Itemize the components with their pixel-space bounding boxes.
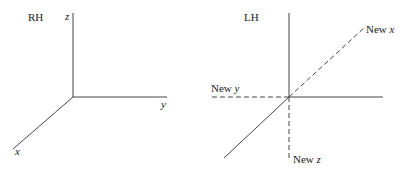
new-y-var: y [235, 82, 240, 94]
rh-x-label: x [15, 146, 20, 157]
lh-new-x-axis [289, 28, 364, 97]
new-x-label: New x [366, 24, 394, 35]
rh-x-axis [13, 97, 73, 149]
lh-diagonal-axis [224, 97, 289, 158]
rh-axes [13, 13, 167, 149]
new-x-var: x [390, 23, 395, 35]
new-x-prefix: New [366, 23, 390, 35]
new-z-var: z [317, 153, 321, 165]
new-y-prefix: New [211, 82, 235, 94]
rh-title: RH [28, 12, 43, 23]
coordinate-systems-diagram [0, 0, 405, 170]
new-z-label: New z [293, 154, 321, 165]
lh-title: LH [244, 12, 259, 23]
rh-y-label: y [161, 99, 166, 110]
new-y-label: New y [211, 83, 239, 94]
rh-z-label: z [65, 11, 69, 22]
new-z-prefix: New [293, 153, 317, 165]
